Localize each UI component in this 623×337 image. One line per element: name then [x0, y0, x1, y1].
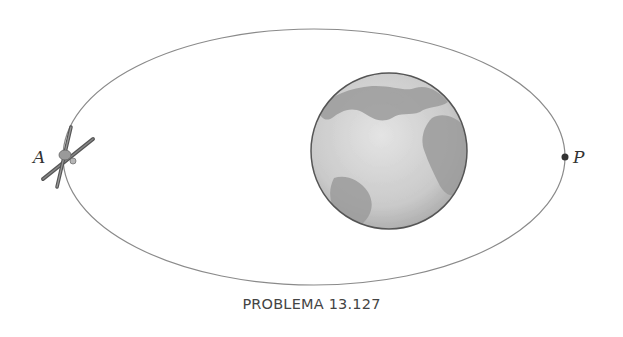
point-A-label: A: [31, 147, 45, 167]
point-P-label: P: [572, 147, 585, 167]
perigee-point: [562, 154, 569, 161]
satellite-icon: [43, 127, 93, 187]
orbit-diagram: A P: [0, 0, 623, 337]
earth-globe: [311, 73, 469, 229]
figure-caption: PROBLEMA 13.127: [0, 296, 623, 312]
